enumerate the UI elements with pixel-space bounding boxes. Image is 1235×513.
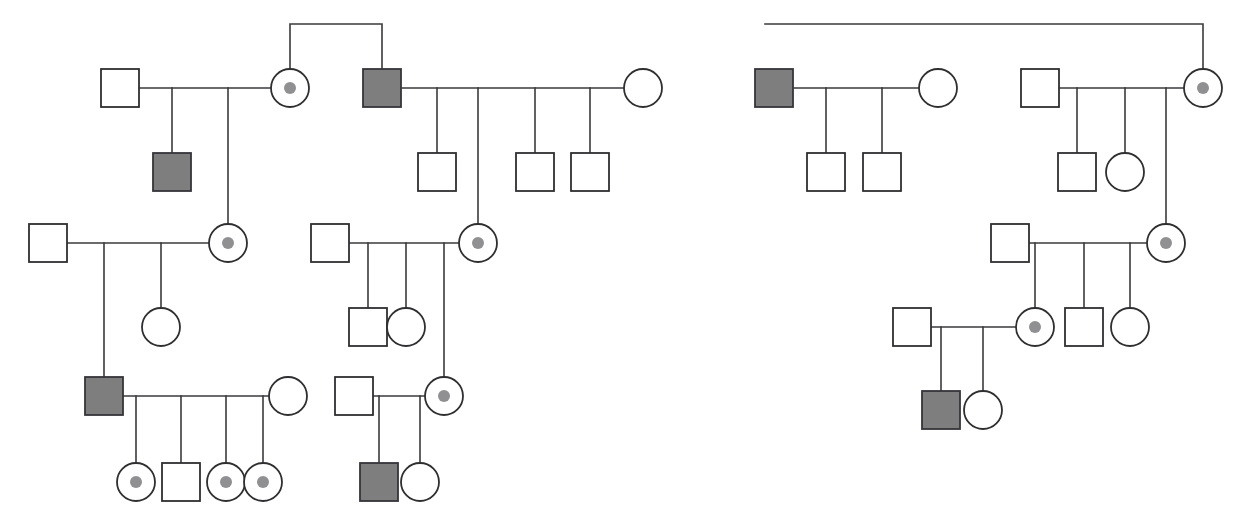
sibship-bracket <box>765 24 1203 69</box>
male-symbol <box>335 377 373 415</box>
pedigree-node-female-unaffected[interactable] <box>624 69 662 107</box>
male-symbol <box>162 463 200 501</box>
male-symbol <box>893 308 931 346</box>
carrier-dot-icon <box>220 476 232 488</box>
male-symbol <box>991 224 1029 262</box>
male-affected-symbol <box>922 391 960 429</box>
male-symbol <box>807 153 845 191</box>
pedigree-node-male-unaffected[interactable] <box>418 153 456 191</box>
pedigree-node-female-unaffected[interactable] <box>269 377 307 415</box>
carrier-dot-icon <box>472 237 484 249</box>
pedigree-node-female-carrier[interactable] <box>1147 224 1185 262</box>
female-symbol <box>387 308 425 346</box>
carrier-dot-icon <box>222 237 234 249</box>
pedigree-node-male-unaffected[interactable] <box>162 463 200 501</box>
pedigree-node-male-unaffected[interactable] <box>863 153 901 191</box>
male-symbol <box>516 153 554 191</box>
female-symbol <box>269 377 307 415</box>
pedigree-node-female-unaffected[interactable] <box>964 391 1002 429</box>
pedigree-node-female-carrier[interactable] <box>459 224 497 262</box>
female-symbol <box>919 69 957 107</box>
carrier-dot-icon <box>1160 237 1172 249</box>
female-symbol <box>1111 308 1149 346</box>
pedigree-node-female-unaffected[interactable] <box>142 308 180 346</box>
pedigree-node-female-unaffected[interactable] <box>1106 153 1144 191</box>
male-affected-symbol <box>153 153 191 191</box>
female-symbol <box>624 69 662 107</box>
pedigree-node-female-unaffected[interactable] <box>919 69 957 107</box>
male-symbol <box>1065 308 1103 346</box>
male-affected-symbol <box>85 377 123 415</box>
pedigree-svg <box>0 0 1235 513</box>
male-affected-symbol <box>363 69 401 107</box>
carrier-dot-icon <box>438 390 450 402</box>
pedigree-node-female-carrier[interactable] <box>209 224 247 262</box>
male-symbol <box>571 153 609 191</box>
pedigree-node-male-affected[interactable] <box>363 69 401 107</box>
male-symbol <box>349 308 387 346</box>
pedigree-node-male-unaffected[interactable] <box>1021 69 1059 107</box>
pedigree-node-male-unaffected[interactable] <box>335 377 373 415</box>
male-symbol <box>311 224 349 262</box>
pedigree-node-male-unaffected[interactable] <box>893 308 931 346</box>
pedigree-node-female-carrier[interactable] <box>207 463 245 501</box>
male-symbol <box>418 153 456 191</box>
male-symbol <box>1021 69 1059 107</box>
sibship-bracket <box>290 24 382 70</box>
pedigree-node-male-affected[interactable] <box>922 391 960 429</box>
symbol-layer <box>29 69 1222 501</box>
carrier-dot-icon <box>1197 82 1209 94</box>
pedigree-node-female-carrier[interactable] <box>244 463 282 501</box>
pedigree-node-male-unaffected[interactable] <box>29 224 67 262</box>
pedigree-node-female-unaffected[interactable] <box>401 463 439 501</box>
female-symbol <box>401 463 439 501</box>
pedigree-node-male-affected[interactable] <box>85 377 123 415</box>
pedigree-node-female-carrier[interactable] <box>425 377 463 415</box>
pedigree-node-male-unaffected[interactable] <box>349 308 387 346</box>
pedigree-node-male-unaffected[interactable] <box>991 224 1029 262</box>
pedigree-node-female-carrier[interactable] <box>271 69 309 107</box>
carrier-dot-icon <box>284 82 296 94</box>
pedigree-node-male-unaffected[interactable] <box>571 153 609 191</box>
pedigree-node-male-unaffected[interactable] <box>1058 153 1096 191</box>
carrier-dot-icon <box>130 476 142 488</box>
pedigree-node-female-carrier[interactable] <box>1184 69 1222 107</box>
pedigree-chart <box>0 0 1235 513</box>
carrier-dot-icon <box>257 476 269 488</box>
carrier-dot-icon <box>1029 321 1041 333</box>
pedigree-node-female-unaffected[interactable] <box>387 308 425 346</box>
male-symbol <box>29 224 67 262</box>
pedigree-node-male-affected[interactable] <box>360 463 398 501</box>
pedigree-node-female-carrier[interactable] <box>117 463 155 501</box>
male-symbol <box>1058 153 1096 191</box>
male-affected-symbol <box>755 69 793 107</box>
female-symbol <box>1106 153 1144 191</box>
male-symbol <box>101 69 139 107</box>
pedigree-node-male-unaffected[interactable] <box>516 153 554 191</box>
pedigree-node-male-unaffected[interactable] <box>807 153 845 191</box>
pedigree-node-male-affected[interactable] <box>755 69 793 107</box>
female-symbol <box>964 391 1002 429</box>
pedigree-node-male-unaffected[interactable] <box>101 69 139 107</box>
male-symbol <box>863 153 901 191</box>
pedigree-node-male-unaffected[interactable] <box>1065 308 1103 346</box>
pedigree-node-female-carrier[interactable] <box>1016 308 1054 346</box>
male-affected-symbol <box>360 463 398 501</box>
pedigree-node-male-unaffected[interactable] <box>311 224 349 262</box>
pedigree-node-male-affected[interactable] <box>153 153 191 191</box>
pedigree-node-female-unaffected[interactable] <box>1111 308 1149 346</box>
female-symbol <box>142 308 180 346</box>
